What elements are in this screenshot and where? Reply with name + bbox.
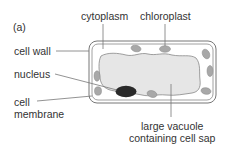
label-nucleus: nucleus <box>14 68 50 80</box>
label-vacuole-1: large vacuole <box>141 120 203 132</box>
label-cell-membrane-2: membrane <box>14 108 64 120</box>
chloroplast <box>94 71 100 81</box>
chloroplast <box>95 87 102 95</box>
label-chloroplast: chloroplast <box>140 10 191 22</box>
chloroplast <box>160 46 171 53</box>
panel-label: (a) <box>13 21 26 33</box>
label-cell-wall: cell wall <box>14 45 51 57</box>
label-cell-membrane-1: cell <box>14 96 30 108</box>
nucleus <box>116 86 137 98</box>
chloroplast <box>207 66 213 77</box>
plant-cell-diagram: (a) cytoplasm chloroplast cell wall nucl… <box>0 0 229 157</box>
cell-membrane-leader <box>37 96 92 101</box>
label-cytoplasm: cytoplasm <box>81 10 128 22</box>
label-vacuole-2: containing cell sap <box>129 132 215 144</box>
